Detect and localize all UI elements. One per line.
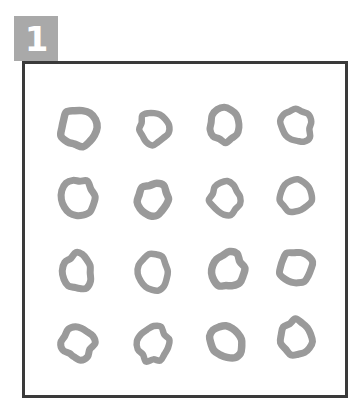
ring-item bbox=[126, 242, 181, 303]
ring-item bbox=[51, 241, 105, 303]
ring-stroke bbox=[207, 247, 249, 292]
ring-item bbox=[49, 166, 107, 230]
ring-item bbox=[47, 96, 110, 159]
ring-stroke bbox=[274, 246, 318, 289]
ring-stroke bbox=[277, 105, 315, 146]
ring-item bbox=[196, 313, 257, 370]
ring-stroke bbox=[203, 319, 249, 365]
ring-item bbox=[267, 239, 325, 297]
ring-stroke bbox=[132, 177, 172, 220]
ring-item bbox=[269, 167, 324, 226]
ring-stroke bbox=[60, 179, 97, 218]
ring-stroke bbox=[57, 323, 98, 363]
ring-stroke bbox=[60, 110, 97, 146]
ring-stroke bbox=[207, 179, 242, 217]
ring-item bbox=[269, 96, 324, 155]
ring-stroke bbox=[61, 251, 93, 289]
illustration-canvas: 1 bbox=[0, 0, 362, 412]
ring-item bbox=[198, 170, 253, 227]
ring-stroke bbox=[136, 252, 169, 291]
ring-item bbox=[268, 307, 326, 369]
ring-item bbox=[127, 99, 180, 156]
ring-item bbox=[126, 315, 181, 374]
ring-grid bbox=[25, 64, 345, 395]
ring-stroke bbox=[133, 322, 172, 366]
ring-item bbox=[125, 171, 182, 230]
index-badge: 1 bbox=[14, 16, 58, 61]
index-badge-label: 1 bbox=[25, 22, 48, 56]
ring-stroke bbox=[208, 105, 242, 144]
ring-stroke bbox=[275, 316, 315, 359]
ring-item bbox=[50, 314, 106, 372]
ring-item bbox=[198, 240, 257, 301]
ring-item bbox=[197, 96, 253, 154]
ring-stroke bbox=[276, 175, 316, 216]
ring-stroke bbox=[137, 110, 171, 146]
panel-frame bbox=[22, 61, 348, 398]
